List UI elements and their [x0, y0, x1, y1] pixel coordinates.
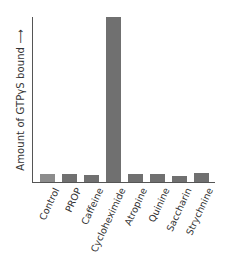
bar-control [40, 174, 55, 182]
bar-saccharin [172, 176, 187, 182]
bar-quinine [150, 174, 165, 182]
x-tick-label-control: Control [37, 186, 61, 222]
x-tick-label-prop: PROP [63, 186, 84, 214]
bar-cycloheximide [106, 17, 121, 182]
bar-chart: Amount of GTPγS bound ⟶ ControlPROPCaffe… [0, 0, 228, 268]
bar-strychnine [194, 173, 209, 182]
bar-atropine [128, 174, 143, 182]
bar-caffeine [84, 175, 99, 182]
x-axis-line [32, 182, 215, 183]
y-axis-label: Amount of GTPγS bound ⟶ [15, 29, 26, 171]
bar-prop [62, 174, 77, 182]
y-axis-line [32, 17, 33, 183]
